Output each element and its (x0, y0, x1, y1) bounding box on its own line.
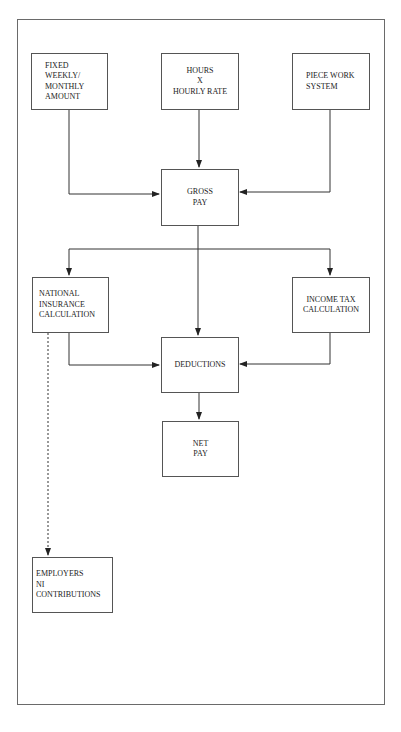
edge-ni-deductions (69, 332, 159, 365)
node-label-line: HOURLY RATE (173, 87, 227, 98)
edge-tax-deductions (240, 332, 330, 364)
node-label-line: CALCULATION (39, 310, 95, 321)
node-gross-pay: GROSS PAY (161, 169, 239, 226)
node-label-line: MONTHLY (45, 82, 84, 93)
node-label-line: AMOUNT (45, 92, 80, 103)
node-label-line: EMPLOYERS (36, 569, 84, 580)
node-employers-ni-contributions: EMPLOYERS NI CONTRIBUTIONS (32, 557, 113, 613)
node-label-line: PAY (193, 449, 208, 460)
node-income-tax-calculation: INCOME TAX CALCULATION (292, 277, 370, 333)
node-label-line: PIECE WORK (306, 71, 355, 82)
edge-fixed-gross (69, 109, 159, 194)
node-label-line: INSURANCE (39, 300, 85, 311)
node-hours-x-hourly-rate: HOURS X HOURLY RATE (161, 53, 239, 110)
node-label-line: NI (36, 580, 44, 591)
node-label-line: FIXED (45, 61, 69, 72)
node-fixed-weekly-monthly-amount: FIXED WEEKLY/ MONTHLY AMOUNT (31, 53, 108, 110)
node-label-line: CALCULATION (303, 305, 359, 316)
node-label-line: WEEKLY/ (45, 71, 80, 82)
node-label-line: GROSS (187, 187, 213, 198)
node-label-line: NATIONAL (39, 289, 79, 300)
node-label-line: CONTRIBUTIONS (36, 590, 100, 601)
node-label-line: DEDUCTIONS (174, 360, 225, 371)
node-national-insurance-calculation: NATIONAL INSURANCE CALCULATION (32, 277, 109, 333)
edge-piece-gross (240, 109, 330, 192)
node-label-line: HOURS (186, 66, 213, 77)
node-label-line: X (197, 76, 203, 87)
node-label-line: INCOME TAX (306, 295, 355, 306)
node-deductions: DEDUCTIONS (161, 337, 239, 393)
node-piece-work-system: PIECE WORK SYSTEM (292, 53, 370, 110)
node-label-line: SYSTEM (306, 82, 338, 93)
node-label-line: PAY (193, 198, 208, 209)
node-label-line: NET (193, 439, 209, 450)
node-net-pay: NET PAY (162, 421, 239, 477)
